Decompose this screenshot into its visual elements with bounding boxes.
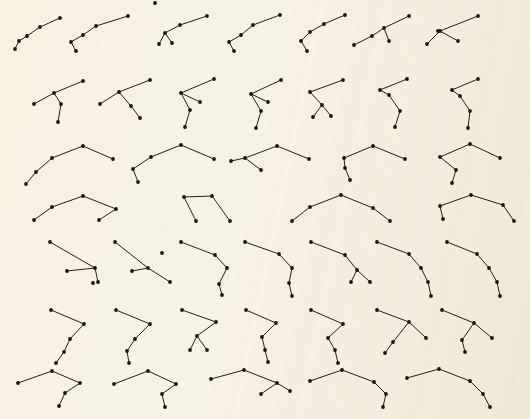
glyph-edge: [262, 323, 276, 337]
glyph-edge: [292, 207, 310, 221]
glyph-node: [495, 280, 499, 284]
glyph-edge: [181, 145, 214, 159]
glyph-node: [476, 77, 480, 81]
glyph-node: [68, 337, 72, 341]
glyph-node: [131, 167, 135, 171]
node-link-glyph: [179, 77, 216, 129]
glyph-edge: [310, 24, 324, 32]
glyph-edge: [65, 383, 80, 393]
glyph-node: [490, 336, 494, 340]
glyph-edge: [184, 197, 196, 221]
glyph-edge: [197, 336, 207, 350]
glyph-node: [198, 100, 202, 104]
glyph-node: [13, 47, 17, 51]
glyph-node: [429, 294, 433, 298]
glyph-edge: [262, 337, 265, 350]
glyph-node: [501, 203, 505, 207]
glyph-edge: [373, 208, 390, 221]
glyph-node: [438, 155, 442, 159]
glyph-node: [212, 77, 216, 81]
glyph-edge: [474, 323, 492, 338]
node-link-glyph: [98, 78, 152, 120]
glyph-edge: [127, 339, 135, 351]
glyph-edge: [385, 342, 393, 353]
glyph-edge: [377, 242, 409, 254]
glyph-node: [405, 77, 409, 81]
glyph-edge: [185, 110, 190, 127]
glyph-edge: [372, 28, 384, 36]
glyph-edge: [131, 106, 140, 118]
glyph-node: [58, 16, 62, 20]
glyph-node: [320, 103, 324, 107]
glyph-node: [336, 361, 340, 365]
glyph-node: [91, 281, 95, 285]
glyph-node: [436, 29, 440, 33]
glyph-edge: [34, 207, 52, 220]
glyph-node: [56, 120, 60, 124]
glyph-node: [440, 308, 444, 312]
glyph-edge: [119, 80, 150, 92]
glyph-node: [112, 382, 116, 386]
glyph-edge: [311, 310, 343, 324]
glyph-node: [81, 33, 85, 37]
glyph-edge: [310, 80, 343, 92]
glyph-node: [136, 180, 140, 184]
node-link-glyph: [405, 367, 492, 409]
glyph-node: [426, 280, 430, 284]
glyph-node: [133, 337, 137, 341]
glyph-node: [343, 253, 347, 257]
glyph-node: [371, 144, 375, 148]
glyph-node: [38, 25, 42, 29]
glyph-node: [326, 336, 330, 340]
node-link-glyph: [308, 368, 388, 409]
glyph-node: [259, 392, 263, 396]
glyph-edge: [229, 35, 241, 42]
glyph-node: [113, 240, 117, 244]
glyph-node: [249, 92, 253, 96]
glyph-node: [32, 218, 36, 222]
glyph-node: [148, 322, 152, 326]
glyph-edge: [215, 255, 227, 268]
node-link-glyph: [375, 308, 428, 355]
glyph-edge: [341, 195, 373, 208]
glyph-node: [174, 382, 178, 386]
glyph-node: [468, 379, 472, 383]
glyph-edge: [301, 32, 310, 41]
node-link-glyph: [438, 193, 516, 223]
glyph-node: [57, 404, 61, 408]
node-link-glyph: [49, 308, 86, 365]
glyph-edge: [377, 310, 409, 322]
glyph-node: [125, 349, 129, 353]
glyph-edge: [241, 25, 253, 35]
glyph-node: [114, 207, 118, 211]
glyph-node: [384, 392, 388, 396]
glyph-node: [308, 205, 312, 209]
glyph-node: [260, 335, 264, 339]
glyph-node: [333, 348, 337, 352]
glyph-node: [188, 108, 192, 112]
node-link-glyph: [180, 308, 218, 352]
glyph-edge: [351, 270, 357, 282]
glyph-node: [322, 22, 326, 26]
node-link-glyph: [352, 14, 411, 47]
glyph-node: [352, 43, 356, 47]
glyph-node: [277, 252, 281, 256]
glyph-edge: [64, 339, 70, 352]
glyph-edge: [133, 157, 151, 169]
glyph-node: [232, 49, 236, 53]
glyph-node: [160, 392, 164, 396]
glyph-edge: [279, 254, 292, 268]
node-link-glyph: [13, 16, 62, 51]
glyph-edge: [245, 158, 261, 170]
glyph-edge: [100, 92, 119, 104]
glyph-node: [74, 49, 78, 53]
glyph-edge: [384, 28, 389, 41]
glyph-node: [342, 156, 346, 160]
glyph-edge: [497, 282, 500, 296]
glyph-node: [398, 109, 402, 113]
glyph-node: [179, 240, 183, 244]
glyph-node: [287, 281, 291, 285]
glyph-node: [24, 182, 28, 186]
glyph-edge: [190, 336, 197, 350]
glyph-node: [468, 142, 472, 146]
